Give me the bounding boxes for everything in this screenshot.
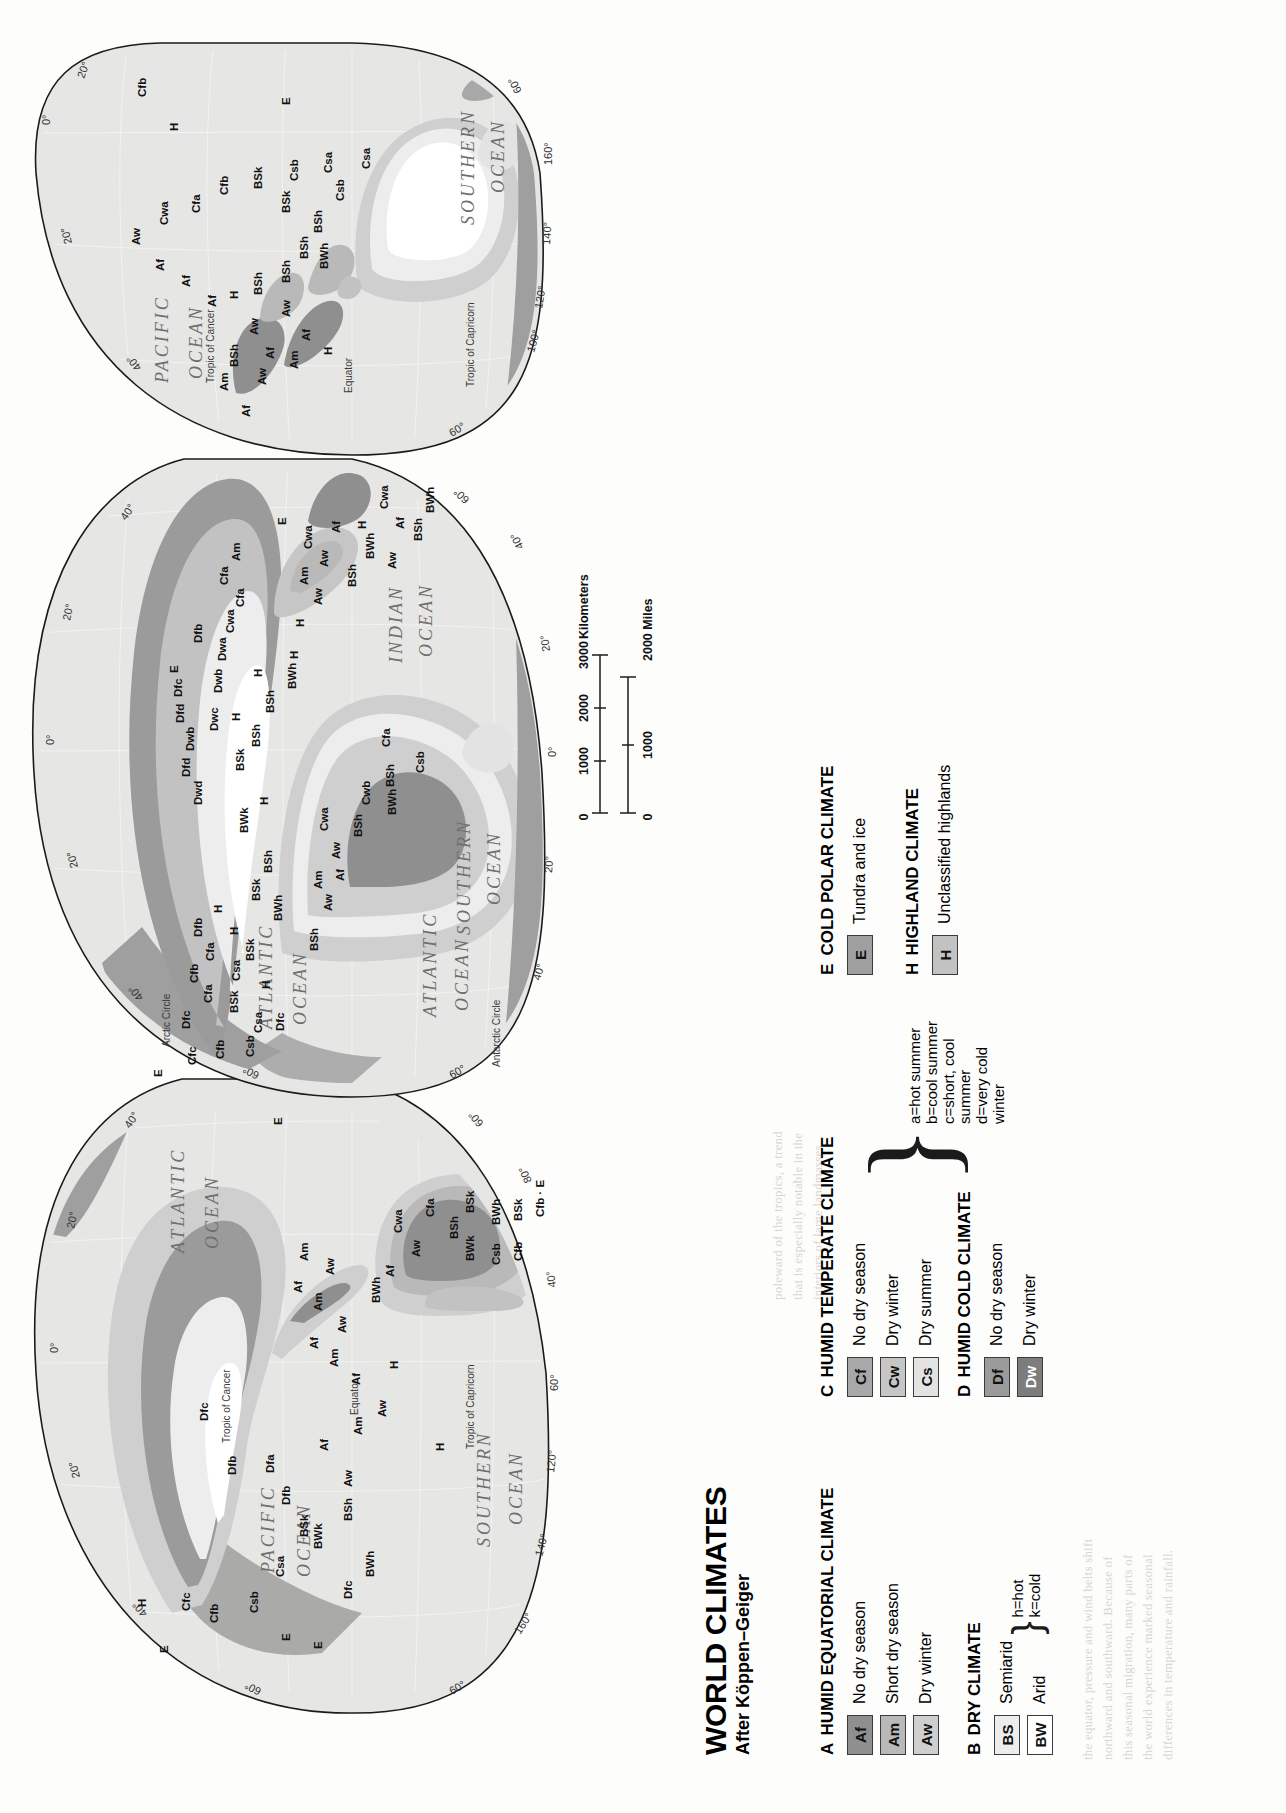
svg-text:Csa: Csa [322,151,334,173]
legend-subtitle: After Köppen–Geiger [733,715,754,1755]
svg-text:E: E [280,97,292,105]
svg-text:Dfc: Dfc [198,1402,210,1421]
legend-label-am: Short dry season [884,1583,902,1704]
swatch-e[interactable]: E [847,935,873,975]
svg-text:Aw: Aw [322,894,334,911]
legend-item-e[interactable]: E Tundra and ice [847,715,873,975]
modifier-d: d=very cold winter [974,1007,1008,1124]
svg-text:H: H [228,927,240,935]
svg-text:Af: Af [240,405,252,417]
svg-text:Cfc: Cfc [180,1592,192,1611]
svg-text:0: 0 [577,813,591,820]
svg-text:120°: 120° [532,285,548,310]
svg-text:H: H [228,291,240,299]
svg-text:BSk: BSk [244,938,256,961]
swatch-cw[interactable]: Cw [880,1357,906,1397]
swatch-dw[interactable]: Dw [1017,1357,1043,1397]
svg-text:H: H [434,1443,446,1451]
svg-text:BWh: BWh [364,533,376,559]
svg-text:Cwa: Cwa [302,525,314,549]
svg-text:0°: 0° [44,734,56,745]
svg-text:20°: 20° [538,634,552,652]
svg-text:Cfa: Cfa [202,984,214,1003]
svg-text:140°: 140° [540,222,554,246]
svg-text:Af: Af [300,329,312,341]
svg-text:Cwa: Cwa [378,485,390,509]
legend-item-bw[interactable]: BW Arid [1027,1641,1053,1755]
swatch-cs[interactable]: Cs [913,1357,939,1397]
svg-text:Cfa: Cfa [204,942,216,961]
legend-item-cf[interactable]: Cf No dry season [847,1192,873,1397]
modifier-a: a=hot summer [907,1007,924,1124]
svg-text:Af: Af [394,517,406,529]
svg-text:Cwa: Cwa [318,807,330,831]
legend-item-af[interactable]: Af No dry season [847,1435,873,1755]
swatch-aw[interactable]: Aw [913,1715,939,1755]
swatch-df[interactable]: Df [984,1357,1010,1397]
svg-text:BSh: BSh [262,850,274,873]
svg-text:Cwa: Cwa [392,1209,404,1233]
legend-item-h[interactable]: H Unclassified highlands [932,715,958,975]
swatch-bw[interactable]: BW [1027,1715,1053,1755]
svg-text:Csa: Csa [274,1555,286,1577]
svg-text:1000: 1000 [641,731,655,759]
svg-text:0°: 0° [40,114,52,125]
svg-text:Af: Af [330,521,342,533]
map-legend: WORLD CLIMATES After Köppen–Geiger A HUM… [700,715,1220,1755]
svg-text:Dwb: Dwb [184,727,196,751]
svg-text:BSh: BSh [412,518,424,541]
svg-text:Aw: Aw [336,1316,348,1333]
svg-text:OCEAN: OCEAN [416,583,436,657]
svg-text:H: H [260,981,272,989]
legend-item-aw[interactable]: Aw Dry winter [913,1435,939,1755]
legend-item-cs[interactable]: Cs Dry summer [913,1192,939,1397]
svg-text:Am: Am [312,1292,324,1311]
svg-text:H: H [230,713,242,721]
legend-label-cs: Dry summer [917,1259,935,1346]
svg-text:Cfb: Cfb [214,1040,226,1059]
swatch-cf[interactable]: Cf [847,1357,873,1397]
svg-text:Csb: Csb [414,751,426,773]
svg-text:BSk: BSk [512,1198,524,1221]
map-lobe-africa-eurasia: 60° 40° 20° 0° 20° 40° 60° 40° 20° 0° 20… [33,459,558,1097]
svg-text:Af: Af [154,259,166,271]
legend-item-cw[interactable]: Cw Dry winter [880,1192,906,1397]
legend-group-b-letter: B [965,1740,985,1755]
legend-group-e: E COLD POLAR CLIMATE E Tundra and ice [818,715,873,975]
svg-text:H: H [212,905,224,913]
svg-text:Dfb: Dfb [192,918,204,937]
svg-text:2000 Miles: 2000 Miles [641,598,655,661]
swatch-am[interactable]: Am [880,1715,906,1755]
svg-text:E: E [312,1641,324,1649]
legend-item-df[interactable]: Df No dry season [984,1192,1010,1397]
swatch-bs[interactable]: BS [994,1715,1020,1755]
svg-text:Cfb: Cfb [188,964,200,983]
svg-text:Af: Af [334,869,346,881]
swatch-h[interactable]: H [932,935,958,975]
legend-item-bs[interactable]: BS Semiarid [994,1641,1020,1755]
svg-text:H: H [136,1599,148,1607]
svg-text:BSk: BSk [298,1514,310,1537]
svg-text:BSk: BSk [234,748,246,771]
legend-label-dw: Dry winter [1021,1274,1039,1346]
svg-text:Cfa: Cfa [218,566,230,585]
modifier-c: c=short, cool summer [941,1007,975,1124]
svg-text:Dwb: Dwb [212,669,224,693]
svg-text:Am: Am [230,542,242,561]
legend-item-dw[interactable]: Dw Dry winter [1017,1192,1043,1397]
swatch-af[interactable]: Af [847,1715,873,1755]
svg-text:Af: Af [264,347,276,359]
svg-text:80°: 80° [516,1165,534,1185]
legend-item-am[interactable]: Am Short dry season [880,1435,906,1755]
svg-text:H: H [252,669,264,677]
svg-text:Antarctic Circle: Antarctic Circle [491,999,502,1067]
svg-text:Csb: Csb [248,1591,260,1613]
svg-text:BSh: BSh [252,272,264,295]
svg-text:BWh: BWh [424,487,436,513]
legend-group-d-heading: D HUMID COLD CLIMATE [955,1192,975,1397]
svg-text:Dfb: Dfb [280,1486,292,1505]
svg-text:40°: 40° [544,1270,558,1288]
svg-text:BSk: BSk [280,190,292,213]
map-svg: 60° 40° 20° 0° 20° 40° 60° 160° 140° 120… [22,33,682,1773]
svg-text:Dfc: Dfc [274,1012,286,1031]
